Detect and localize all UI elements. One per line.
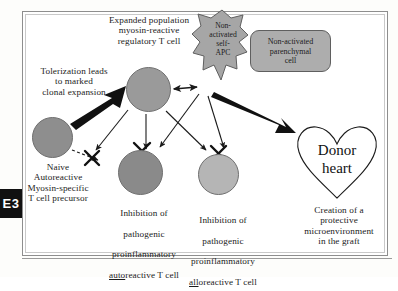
inhibition-allo-underlined: all (189, 277, 198, 287)
inhibition-allo-line2: pathogenic (174, 236, 272, 246)
inhibition-alloreactive-label: Inhibition of pathogenic proinflammatory… (174, 205, 272, 291)
inhibited-alloreactive-t-cell (198, 154, 239, 195)
expanded-regulatory-t-cell (126, 67, 171, 112)
donor-heart-label: Donor heart (303, 141, 371, 178)
inhibition-allo-line4: alloreactive T cell (174, 277, 272, 287)
graft-microenvironment-label: Creation of a protective microenvironmen… (292, 205, 386, 246)
parenchymal-label: Non-activated parenchymal cell (252, 37, 329, 66)
inhibition-auto-rest: reactive T cell (125, 270, 179, 280)
tolerization-label: Tolerization leads to marked clonal expa… (22, 66, 126, 97)
naive-autoreactive-t-cell (32, 117, 73, 158)
inhibition-auto-underlined: auto (109, 270, 125, 280)
inhibition-allo-rest: oreactive T cell (199, 277, 257, 287)
inhibited-autoreactive-t-cell (118, 150, 163, 195)
expanded-population-label: Expanded population myosin-reactive regu… (84, 15, 214, 46)
naive-precursor-label: Naive Autoreactive Myosin-specific T cel… (10, 162, 106, 203)
inhibition-allo-line1: Inhibition of (174, 215, 272, 225)
inhibition-allo-line3: proinflammatory (174, 256, 272, 266)
